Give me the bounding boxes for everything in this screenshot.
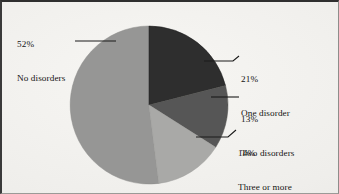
callout-three-or-more-percent: 14% [238, 148, 292, 159]
callout-no-disorders[interactable]: 52% No disorders [17, 17, 65, 107]
callout-two-disorders-percent: 13% [241, 114, 294, 125]
callout-no-disorders-percent: 52% [17, 39, 65, 50]
callout-no-disorders-label: No disorders [17, 73, 65, 84]
callout-three-or-more-disorders[interactable]: 14% Three or more disorders [238, 126, 292, 194]
pie-slice-no-disorders[interactable] [70, 26, 159, 184]
callout-one-disorder-percent: 21% [241, 74, 290, 85]
pie-chart-figure: 52% No disorders 21% One disorder 13% Tw… [0, 0, 339, 194]
callout-three-or-more-label-line1: Three or more [238, 182, 292, 193]
